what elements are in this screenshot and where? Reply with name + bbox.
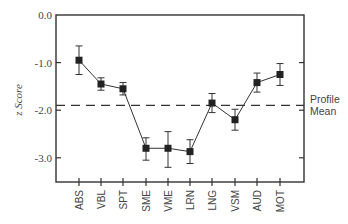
y-tick-label: -3.0 xyxy=(35,152,53,164)
plot-frame xyxy=(56,15,304,182)
data-point-marker xyxy=(143,145,150,152)
y-axis-label: z Score xyxy=(12,84,24,117)
z-score-profile-chart: 0.0-1.0-2.0-3.0ABSVBLSPTSMEVMELRNLNGVSMA… xyxy=(0,0,348,224)
x-tick-label: LRN xyxy=(185,190,196,210)
plot-axes: 0.0-1.0-2.0-3.0ABSVBLSPTSMEVMELRNLNGVSMA… xyxy=(35,9,304,212)
data-point-marker xyxy=(232,116,239,123)
data-point-marker xyxy=(76,57,83,64)
y-tick-label: -2.0 xyxy=(35,104,53,116)
data-point-marker xyxy=(209,100,216,107)
data-point-marker xyxy=(254,79,261,86)
x-tick-label: MOT xyxy=(275,190,286,212)
data-point-marker xyxy=(277,71,284,78)
x-tick-label: VBL xyxy=(96,190,107,209)
data-point-marker xyxy=(165,145,172,152)
data-point-marker xyxy=(187,148,194,155)
x-tick-label: VME xyxy=(163,190,174,212)
x-tick-label: LNG xyxy=(207,190,218,211)
data-point-marker xyxy=(120,85,127,92)
y-tick-label: 0.0 xyxy=(38,9,52,21)
x-tick-label: AUD xyxy=(252,190,263,211)
y-tick-label: -1.0 xyxy=(35,57,53,69)
x-tick-label: VSM xyxy=(230,190,241,212)
reference-label-line1: Profile xyxy=(310,93,340,105)
data-series xyxy=(76,46,284,167)
reference-label-line2: Mean xyxy=(310,105,336,117)
x-tick-label: ABS xyxy=(74,190,85,210)
x-tick-label: SME xyxy=(141,190,152,212)
x-tick-label: SPT xyxy=(118,190,129,209)
data-point-marker xyxy=(98,81,105,88)
